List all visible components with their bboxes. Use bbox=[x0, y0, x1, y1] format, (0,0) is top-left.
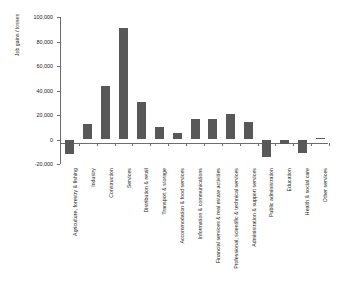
x-tick bbox=[222, 143, 223, 146]
x-axis-label: Information & communications bbox=[197, 168, 203, 239]
x-tick bbox=[132, 143, 133, 146]
y-tick: 80,000 bbox=[57, 42, 60, 43]
x-axis-label: Health & social care bbox=[304, 168, 310, 215]
plot-area: 100,00080,00060,00040,00020,0000-20,000 bbox=[60, 17, 328, 164]
x-axis-label-text: Accommodation & food services bbox=[179, 168, 185, 244]
x-axis-label: Industry bbox=[90, 168, 96, 187]
x-axis-label-text: Administration & support services bbox=[251, 168, 257, 247]
x-tick bbox=[311, 143, 312, 146]
x-tick bbox=[293, 143, 294, 146]
bar bbox=[173, 133, 182, 140]
x-axis-label: Public administration bbox=[268, 168, 274, 217]
y-tick-label: 80,000 bbox=[37, 39, 54, 45]
y-axis-title: Job gains / losses bbox=[14, 0, 20, 75]
x-tick bbox=[258, 143, 259, 146]
x-tick bbox=[329, 143, 330, 146]
bar bbox=[191, 119, 200, 140]
bar bbox=[155, 127, 164, 140]
bar bbox=[119, 28, 128, 139]
y-tick-label: 100,000 bbox=[34, 14, 54, 20]
x-axis-label-text: Transport & storage bbox=[161, 168, 167, 215]
x-tick bbox=[186, 143, 187, 146]
x-tick bbox=[115, 143, 116, 146]
bar bbox=[226, 114, 235, 139]
y-tick-label: 20,000 bbox=[37, 112, 54, 118]
x-axis-label-text: Information & communications bbox=[197, 168, 203, 239]
x-axis-label-text: Agriculture, forestry & fishing bbox=[72, 168, 78, 236]
x-tick bbox=[275, 143, 276, 146]
y-axis-line bbox=[60, 17, 61, 164]
bar bbox=[262, 140, 271, 157]
x-axis-label: Construction bbox=[108, 168, 114, 198]
bar bbox=[280, 140, 289, 145]
bar bbox=[316, 138, 325, 139]
x-axis-label-text: Professional, scientific & technical ser… bbox=[233, 168, 239, 269]
x-axis-label: Other services bbox=[322, 168, 328, 202]
bar bbox=[65, 140, 74, 155]
y-tick: 20,000 bbox=[57, 115, 60, 116]
x-axis-label-text: Other services bbox=[322, 168, 328, 202]
x-axis-label-text: Services bbox=[126, 168, 132, 188]
y-tick: 40,000 bbox=[57, 91, 60, 92]
x-tick bbox=[150, 143, 151, 146]
x-axis-label: Distribution & retail bbox=[143, 168, 149, 213]
x-tick bbox=[240, 143, 241, 146]
y-tick-label: 60,000 bbox=[37, 63, 54, 69]
x-axis-label: Agriculture, forestry & fishing bbox=[72, 168, 78, 236]
bar bbox=[83, 124, 92, 140]
x-tick bbox=[204, 143, 205, 146]
bar bbox=[298, 140, 307, 153]
x-axis-label: Administration & support services bbox=[251, 168, 257, 247]
x-axis-label-text: Industry bbox=[90, 168, 96, 187]
x-axis-label: Accommodation & food services bbox=[179, 168, 185, 244]
y-tick: 0 bbox=[57, 140, 60, 141]
y-tick-label: 0 bbox=[50, 137, 53, 143]
x-axis-label: Education bbox=[286, 168, 292, 192]
y-tick: 60,000 bbox=[57, 66, 60, 67]
y-tick: 100,000 bbox=[57, 17, 60, 18]
x-axis-label: Financial services & real estate activit… bbox=[215, 168, 221, 263]
x-tick bbox=[168, 143, 169, 146]
y-tick: -20,000 bbox=[57, 164, 60, 165]
x-axis-label-text: Public administration bbox=[268, 168, 274, 217]
y-tick-label: 40,000 bbox=[37, 88, 54, 94]
bar-chart: Job gains / losses 100,00080,00060,00040… bbox=[0, 0, 338, 303]
x-axis-label-text: Construction bbox=[108, 168, 114, 198]
x-axis-label-text: Distribution & retail bbox=[143, 168, 149, 213]
bar bbox=[137, 102, 146, 139]
x-tick bbox=[97, 143, 98, 146]
y-tick-label: -20,000 bbox=[35, 161, 53, 167]
bar bbox=[101, 86, 110, 139]
x-axis-label: Transport & storage bbox=[161, 168, 167, 215]
x-tick bbox=[79, 143, 80, 146]
bar bbox=[244, 122, 253, 139]
x-axis-label-text: Financial services & real estate activit… bbox=[215, 168, 221, 263]
bar bbox=[208, 119, 217, 140]
x-axis-label: Services bbox=[126, 168, 132, 188]
x-axis-label: Professional, scientific & technical ser… bbox=[233, 168, 239, 269]
x-axis-label-text: Health & social care bbox=[304, 168, 310, 215]
x-axis-label-text: Education bbox=[286, 168, 292, 192]
